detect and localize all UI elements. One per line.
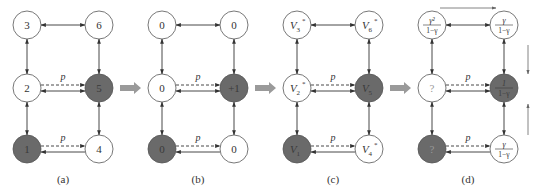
probability-label: p — [330, 71, 336, 82]
value-label: 4 — [96, 143, 102, 155]
state-circle — [355, 11, 383, 39]
value-label: 6 — [96, 19, 102, 31]
state-node-3: γ²1−γ — [418, 11, 446, 39]
state-circle — [355, 74, 383, 102]
value-label: 0 — [231, 19, 237, 31]
value-numerator: 1 — [502, 79, 506, 88]
value-label: ? — [430, 143, 435, 155]
state-node-3: V3* — [283, 11, 311, 39]
state-node-5: 11−γ — [490, 74, 518, 102]
state-node-2: ? — [418, 74, 446, 102]
optimal-star: * — [302, 80, 306, 88]
panel-caption: (b) — [192, 173, 205, 186]
probability-label: p — [330, 132, 336, 143]
value-label: 1 — [24, 143, 30, 155]
probability-label: p — [60, 132, 66, 143]
value-denominator: 1−γ — [498, 26, 510, 35]
state-node-3: 0 — [148, 11, 176, 39]
state-node-5: +1 — [220, 74, 248, 102]
value-denominator: 1−γ — [498, 150, 510, 159]
state-node-6: V6* — [355, 11, 383, 39]
value-label: 2 — [24, 82, 30, 94]
value-denominator: 1−γ — [498, 89, 510, 98]
state-circle — [283, 74, 311, 102]
state-node-6: γ1−γ — [490, 11, 518, 39]
value-label: +1 — [228, 82, 240, 94]
state-node-5: 5 — [85, 74, 113, 102]
transition-arrow-icon — [255, 82, 276, 94]
probability-label: p — [60, 71, 66, 82]
probability-label: p — [465, 71, 471, 82]
state-node-5: V5 — [355, 74, 383, 102]
value-label: 0 — [159, 143, 165, 155]
value-label: 0 — [159, 19, 165, 31]
probability-label: p — [195, 132, 201, 143]
probability-label: p — [195, 71, 201, 82]
state-node-6: 6 — [85, 11, 113, 39]
state-node-1: ? — [418, 135, 446, 163]
value-label: 3 — [24, 19, 30, 31]
mdp-gridworld-figure: pp362514(a)pp000+100(b)ppV3*V6*V2*V5V1V4… — [0, 0, 536, 191]
value-label: ? — [430, 82, 435, 94]
probability-label: p — [465, 132, 471, 143]
value-label: 0 — [231, 143, 237, 155]
optimal-star: * — [302, 17, 306, 25]
state-node-4: γ1−γ — [490, 135, 518, 163]
panel-a: pp362514(a) — [13, 11, 113, 186]
value-denominator: 1−γ — [426, 26, 438, 35]
state-circle — [283, 11, 311, 39]
optimal-star: * — [374, 17, 378, 25]
state-node-6: 0 — [220, 11, 248, 39]
panel-c: ppV3*V6*V2*V5V1V4*(c) — [283, 11, 383, 186]
state-node-1: 1 — [13, 135, 41, 163]
value-numerator: γ² — [429, 16, 435, 25]
panel-caption: (c) — [327, 173, 340, 186]
state-node-2: V2* — [283, 74, 311, 102]
state-node-3: 3 — [13, 11, 41, 39]
value-label: 5 — [96, 82, 102, 94]
state-node-2: 2 — [13, 74, 41, 102]
state-circle — [355, 135, 383, 163]
state-node-4: 4 — [85, 135, 113, 163]
panel-caption: (d) — [462, 173, 475, 186]
panel-b: pp000+100(b) — [148, 11, 248, 186]
transition-arrow-icon — [120, 82, 141, 94]
state-node-2: 0 — [148, 74, 176, 102]
panel-d: ppγ²1−γγ1−γ?11−γ?γ1−γ(d) — [418, 8, 528, 186]
state-node-1: V1 — [283, 135, 311, 163]
state-circle — [283, 135, 311, 163]
state-node-4: V4* — [355, 135, 383, 163]
state-node-1: 0 — [148, 135, 176, 163]
transition-arrow-icon — [390, 82, 411, 94]
optimal-star: * — [374, 141, 378, 149]
value-label: 0 — [159, 82, 165, 94]
panel-caption: (a) — [57, 173, 70, 186]
state-node-4: 0 — [220, 135, 248, 163]
